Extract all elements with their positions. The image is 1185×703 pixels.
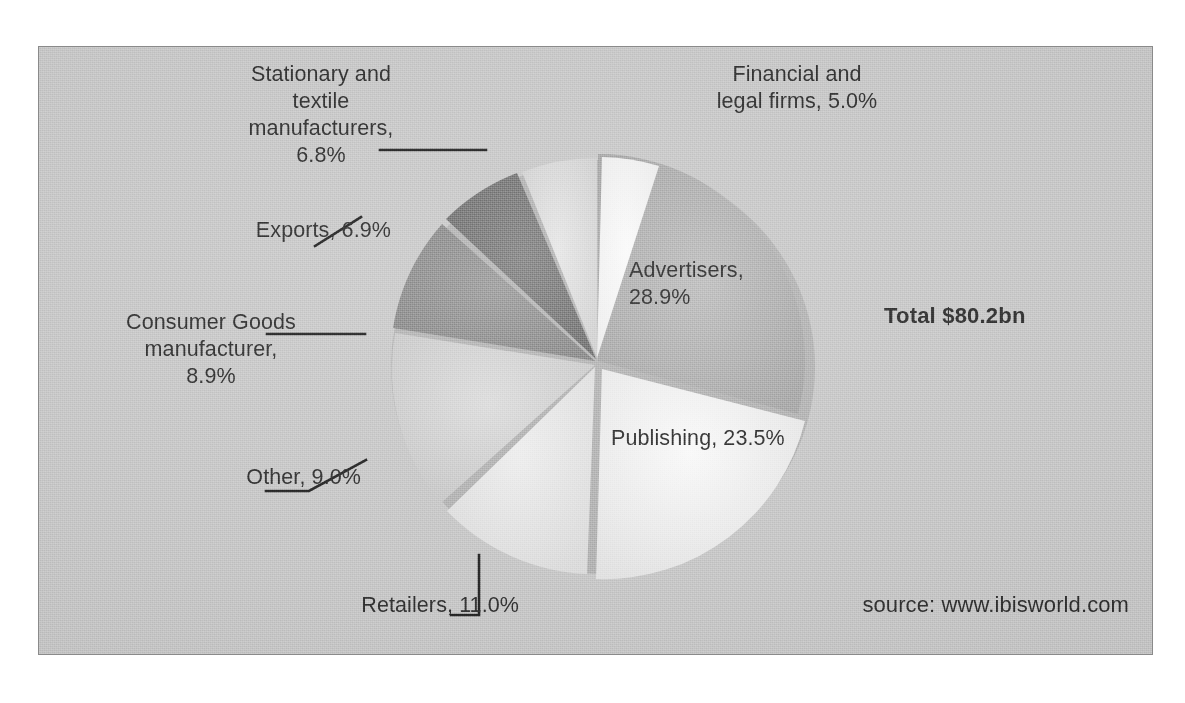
chart-frame: Stationary and textile manufacturers, 6.… bbox=[38, 46, 1153, 655]
total-value-label: Total $80.2bn bbox=[884, 303, 1114, 329]
figure-root: Stationary and textile manufacturers, 6.… bbox=[0, 0, 1185, 703]
label-consumer-goods: Consumer Goods manufacturer, 8.9% bbox=[61, 309, 361, 390]
label-publishing: Publishing, 23.5% bbox=[611, 425, 871, 452]
label-exports: Exports, 6.9% bbox=[91, 217, 391, 244]
label-stationary-textile: Stationary and textile manufacturers, 6.… bbox=[191, 61, 451, 169]
label-financial-legal: Financial and legal firms, 5.0% bbox=[657, 61, 937, 115]
label-advertisers: Advertisers, 28.9% bbox=[629, 257, 859, 311]
label-other: Other, 9.0% bbox=[61, 464, 361, 491]
label-retailers: Retailers, 11.0% bbox=[219, 592, 519, 619]
source-attribution: source: www.ibisworld.com bbox=[739, 592, 1129, 618]
